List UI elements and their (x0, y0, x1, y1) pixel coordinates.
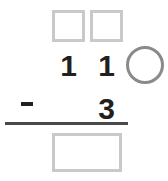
regroup-box-tens[interactable] (52, 10, 85, 42)
minuend-digit-ones: 1 (90, 51, 123, 81)
subtrahend-digit-ones: 3 (90, 94, 123, 124)
equation-rule-line (5, 122, 128, 125)
minus-operator-label: − (0, 0, 1, 1)
minus-operator-icon (21, 102, 33, 106)
subtraction-worksheet: 1 1 − 3 (0, 0, 168, 181)
minuend-digit-tens: 1 (52, 51, 85, 81)
regroup-box-ones[interactable] (90, 10, 123, 42)
regroup-circle[interactable] (126, 46, 164, 84)
answer-box[interactable] (52, 133, 122, 172)
